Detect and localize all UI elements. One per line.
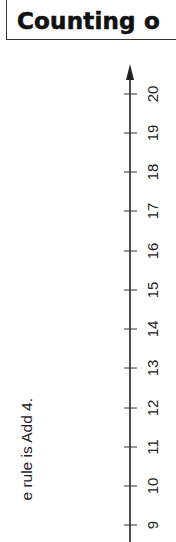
tick-label: 14 <box>145 314 161 344</box>
tick-label: 11 <box>145 432 161 462</box>
tick-label: 18 <box>145 157 161 187</box>
tick-label: 16 <box>145 236 161 266</box>
tick-label: 9 <box>145 510 161 540</box>
tick-label: 13 <box>145 353 161 383</box>
tick-label: 10 <box>145 471 161 501</box>
arrow-up-icon <box>126 64 134 80</box>
tick-label: 12 <box>145 393 161 423</box>
tick-label: 20 <box>145 79 161 109</box>
tick-label: 19 <box>145 118 161 148</box>
tick-label: 15 <box>145 275 161 305</box>
tick-label: 17 <box>145 196 161 226</box>
rule-instruction: e rule is Add 4. <box>18 398 36 542</box>
